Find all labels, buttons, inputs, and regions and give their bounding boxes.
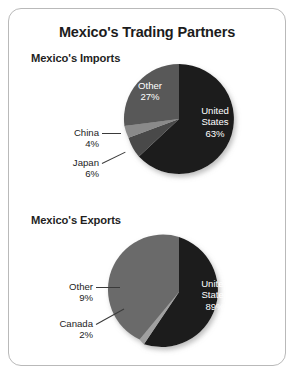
exports-label-us-line1: United bbox=[201, 278, 229, 289]
exports-label-canada: Canada 2% bbox=[37, 318, 93, 341]
exports-label-canada-name: Canada bbox=[59, 318, 93, 329]
exports-label-other: Other 9% bbox=[41, 281, 93, 304]
exports-label-other-name: Other bbox=[69, 281, 93, 292]
exports-label-other-value: 9% bbox=[41, 292, 93, 303]
exports-label-united-states: United States 89% bbox=[185, 278, 245, 312]
exports-label-canada-value: 2% bbox=[37, 329, 93, 340]
exports-pie-chart bbox=[9, 9, 286, 366]
exports-label-us-value: 89% bbox=[185, 301, 245, 312]
exports-label-us-line2: States bbox=[201, 289, 228, 300]
exports-leader-other bbox=[96, 287, 120, 288]
figure-card: Mexico's Trading Partners Mexico's Impor… bbox=[8, 8, 286, 366]
